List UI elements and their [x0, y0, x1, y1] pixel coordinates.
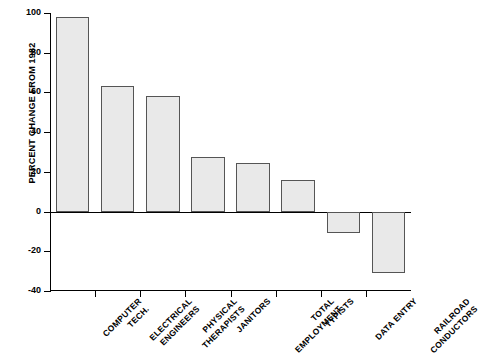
y-tick-label: 60 — [31, 86, 41, 96]
plot-area: 100806040200-20-40 — [50, 13, 411, 291]
y-tick: -40 — [44, 291, 51, 292]
y-tick-label: 100 — [26, 7, 41, 17]
y-tick-label: 20 — [31, 166, 41, 176]
x-axis-label: COMPUTERTECH. — [101, 296, 151, 346]
x-tick — [95, 290, 96, 297]
x-tick — [276, 290, 277, 297]
x-tick — [140, 290, 141, 297]
x-axis-label: TOTALEMPLOYMENT — [285, 296, 344, 355]
x-axis-label-line: DATA ENTRY — [373, 296, 419, 342]
x-axis-label: ELECTRICALENGINEERS — [148, 296, 202, 350]
bar — [281, 180, 314, 212]
bar — [327, 212, 360, 234]
y-tick-label: 0 — [36, 206, 41, 216]
y-tick: 80 — [44, 53, 51, 54]
y-tick: -20 — [44, 251, 51, 252]
bar — [146, 96, 179, 211]
y-tick: 100 — [44, 13, 51, 14]
bar — [191, 157, 224, 212]
y-tick: 60 — [44, 92, 51, 93]
bar — [101, 86, 134, 211]
y-tick: 40 — [44, 132, 51, 133]
y-tick-label: -20 — [28, 245, 41, 255]
y-axis-line — [50, 13, 51, 291]
x-axis-label: RAILROADCONDUCTORS — [420, 296, 479, 355]
x-tick — [366, 290, 367, 297]
y-tick-label: -40 — [28, 285, 41, 295]
bar — [372, 212, 405, 274]
y-tick: 0 — [44, 212, 51, 213]
y-tick-label: 40 — [31, 126, 41, 136]
y-axis-title: PERCENT CHANGE FROM 1982 — [27, 13, 37, 213]
y-tick: 20 — [44, 172, 51, 173]
x-axis-label: DATA ENTRY — [373, 296, 419, 342]
y-tick-label: 80 — [31, 47, 41, 57]
bar — [236, 163, 269, 212]
bar — [56, 17, 89, 212]
x-tick — [321, 290, 322, 297]
